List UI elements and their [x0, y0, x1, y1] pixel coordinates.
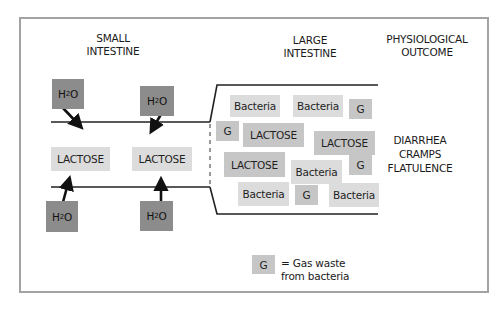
physiological-outcome-list: DIARRHEA CRAMPS FLATULENCE — [378, 133, 462, 175]
water-box: H2O — [52, 79, 84, 109]
bacteria-box: Bacteria — [291, 160, 342, 184]
bacteria-box: Bacteria — [293, 95, 343, 117]
lactose-box: LACTOSE — [314, 131, 375, 155]
gas-box: G — [295, 185, 318, 205]
water-box: H2O — [140, 201, 173, 231]
bacteria-box: Bacteria — [238, 182, 289, 206]
gas-box: G — [216, 121, 239, 141]
legend-text: = Gas waste from bacteria — [281, 257, 349, 283]
water-box: H2O — [140, 86, 174, 116]
lactose-box: LACTOSE — [243, 123, 304, 147]
lactose-box: LACTOSE — [51, 147, 110, 171]
lactose-box: LACTOSE — [132, 147, 192, 171]
gas-box: G — [349, 155, 372, 175]
water-box: H2O — [46, 201, 78, 232]
bacteria-box: Bacteria — [230, 95, 280, 117]
lactose-box: LACTOSE — [224, 152, 285, 177]
legend-gas-symbol: G — [252, 255, 275, 274]
bacteria-box: Bacteria — [329, 183, 379, 207]
gas-box: G — [349, 99, 372, 119]
